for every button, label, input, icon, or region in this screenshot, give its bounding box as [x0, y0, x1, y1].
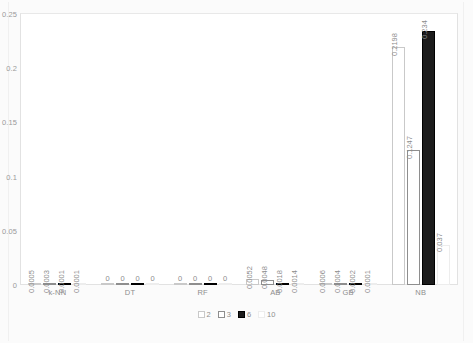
bar-value-label: 0.037 [436, 234, 444, 253]
bar-group-dt: 0000 [94, 14, 167, 285]
bar-gb-series-6[interactable]: 0.0002 [349, 283, 362, 285]
bar-value-label: 0.0052 [245, 266, 253, 289]
legend-item-3[interactable]: 3 [218, 310, 231, 319]
bar-group-gb: 0.00060.00040.00020.0001 [312, 14, 385, 285]
bar-k-nn-series-2[interactable]: 0.0005 [28, 283, 41, 285]
bar-slot: 0.0003 [43, 14, 56, 285]
legend-swatch-icon [258, 311, 265, 318]
bar-ab-series-3[interactable]: 0.0048 [261, 280, 274, 285]
bar-slot: 0.0052 [246, 14, 259, 285]
bar-value-label: 0.234 [421, 20, 429, 39]
bar-slot: 0.0001 [58, 14, 71, 285]
bar-k-nn-series-6[interactable]: 0.0001 [58, 283, 71, 285]
legend-swatch-icon [218, 311, 225, 318]
bar-value-label: 0 [208, 275, 212, 283]
bar-nb-series-2[interactable]: 0.2198 [392, 47, 405, 285]
legend-label: 6 [247, 310, 251, 319]
bar-group-rf: 0000 [166, 14, 239, 285]
bar-slot: 0.0018 [276, 14, 289, 285]
bar-group-nb: 0.21980.12470.2340.037 [384, 14, 457, 285]
bar-ab-series-6[interactable]: 0.0018 [276, 283, 289, 285]
bar-slot: 0 [219, 14, 232, 285]
bar-slot: 0.0001 [73, 14, 86, 285]
legend-item-10[interactable]: 10 [258, 310, 275, 319]
bar-value-label: 0 [105, 275, 109, 283]
bar-slot: 0 [146, 14, 159, 285]
bar-gb-series-3[interactable]: 0.0004 [334, 283, 347, 285]
bar-rf-series-6[interactable]: 0 [204, 283, 217, 285]
bar-slot: 0 [101, 14, 114, 285]
bar-slot: 0 [189, 14, 202, 285]
bar-rf-series-10[interactable]: 0 [219, 283, 232, 285]
bar-slot: 0.0014 [291, 14, 304, 285]
bar-slot: 0 [174, 14, 187, 285]
bar-slot: 0.234 [422, 14, 435, 285]
bar-value-label: 0.2198 [391, 33, 399, 56]
bar-ab-series-10[interactable]: 0.0014 [291, 283, 304, 285]
legend-label: 10 [267, 310, 275, 319]
bar-slot: 0 [204, 14, 217, 285]
bar-k-nn-series-3[interactable]: 0.0003 [43, 283, 56, 285]
legend-label: 2 [207, 310, 211, 319]
x-axis-category-labels: k-NNDTRFABGBNB [21, 288, 457, 297]
bar-dt-series-3[interactable]: 0 [116, 283, 129, 285]
bar-slot: 0.0001 [364, 14, 377, 285]
bar-slot: 0.0002 [349, 14, 362, 285]
bar-nb-series-6[interactable]: 0.234 [422, 31, 435, 285]
x-axis-label-k-nn: k-NN [21, 288, 94, 297]
x-axis-label-nb: NB [384, 288, 457, 297]
y-axis-tick-label: 0.2 [6, 64, 17, 73]
bar-dt-series-10[interactable]: 0 [146, 283, 159, 285]
bar-slot: 0 [131, 14, 144, 285]
bar-rf-series-2[interactable]: 0 [174, 283, 187, 285]
y-axis-tick-label: 0.05 [2, 226, 17, 235]
bar-slot: 0.2198 [392, 14, 405, 285]
legend-swatch-icon [198, 311, 205, 318]
bar-slot: 0.037 [437, 14, 450, 285]
bar-nb-series-3[interactable]: 0.1247 [407, 150, 420, 285]
legend-item-2[interactable]: 2 [198, 310, 211, 319]
bar-value-label: 0 [120, 275, 124, 283]
legend-swatch-icon [238, 311, 245, 318]
bar-groups: 0.00050.00030.00010.0001000000000.00520.… [21, 14, 457, 285]
bar-value-label: 0 [223, 275, 227, 283]
x-axis-label-ab: AB [239, 288, 312, 297]
bar-value-label: 0.0048 [260, 266, 268, 289]
bar-rf-series-3[interactable]: 0 [189, 283, 202, 285]
bar-slot: 0.0048 [261, 14, 274, 285]
bar-dt-series-6[interactable]: 0 [131, 283, 144, 285]
bar-slot: 0 [116, 14, 129, 285]
x-axis-label-dt: DT [94, 288, 167, 297]
bar-group-k-nn: 0.00050.00030.00010.0001 [21, 14, 94, 285]
bar-gb-series-10[interactable]: 0.0001 [364, 283, 377, 285]
legend-item-6[interactable]: 6 [238, 310, 251, 319]
bar-slot: 0.0006 [319, 14, 332, 285]
bar-slot: 0.0005 [28, 14, 41, 285]
bar-value-label: 0 [150, 275, 154, 283]
bar-ab-series-2[interactable]: 0.0052 [246, 279, 259, 285]
bar-chart: 0.250.20.150.10.050 0.00050.00030.00010.… [0, 0, 473, 343]
bar-slot: 0.0004 [334, 14, 347, 285]
y-axis-tick-label: 0 [13, 281, 17, 290]
chart-legend: 23610 [0, 310, 473, 319]
legend-label: 3 [227, 310, 231, 319]
bar-value-label: 0 [178, 275, 182, 283]
x-axis-label-gb: GB [312, 288, 385, 297]
bar-gb-series-2[interactable]: 0.0006 [319, 283, 332, 285]
y-axis-tick-label: 0.1 [6, 172, 17, 181]
y-axis-tick-label: 0.25 [2, 10, 17, 19]
bar-dt-series-2[interactable]: 0 [101, 283, 114, 285]
y-axis-tick-label: 0.15 [2, 118, 17, 127]
bar-group-ab: 0.00520.00480.00180.0014 [239, 14, 312, 285]
x-axis-label-rf: RF [166, 288, 239, 297]
bar-nb-series-10[interactable]: 0.037 [437, 245, 450, 285]
bar-k-nn-series-10[interactable]: 0.0001 [73, 283, 86, 285]
bar-value-label: 0 [135, 275, 139, 283]
bar-value-label: 0.1247 [406, 136, 414, 159]
bar-slot: 0.1247 [407, 14, 420, 285]
bar-value-label: 0 [193, 275, 197, 283]
